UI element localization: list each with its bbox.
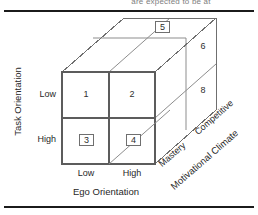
figure-root: are expected to be at 1 2 3 4 5 [0,0,258,215]
x-tick-low: Low [66,168,106,178]
x-axis-title: Ego Orientation [50,186,162,197]
y-tick-low: Low [30,89,56,99]
cell-2-label: 2 [122,89,142,100]
cell-4-label: 4 [126,134,141,146]
y-axis-title: Task Orientation [12,57,23,147]
cell-6-label: 6 [196,41,210,52]
cell-5-label: 5 [155,21,170,33]
x-tick-high: High [112,168,152,178]
cell-3-label: 3 [79,134,94,146]
cell-1-label: 1 [76,89,96,100]
cell-8-label: 8 [196,85,210,96]
y-tick-high: High [30,134,56,144]
